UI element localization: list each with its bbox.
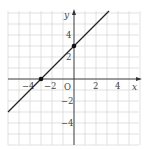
y-tick-label: −4 xyxy=(61,118,74,128)
y-axis-label: y xyxy=(63,10,70,20)
x-axis-label: x xyxy=(132,82,137,92)
coordinate-plane: x y O −4−22442−2−4 xyxy=(0,0,145,149)
y-tick-label: −2 xyxy=(61,96,74,106)
axes: x y O xyxy=(8,9,142,145)
origin-label: O xyxy=(64,82,71,92)
x-tick-label: 4 xyxy=(115,81,120,91)
graph-line xyxy=(8,11,109,112)
x-intercept-point xyxy=(39,77,44,82)
y-intercept-point xyxy=(72,44,77,49)
x-tick-label: −4 xyxy=(22,81,35,91)
y-tick-label: 4 xyxy=(66,30,71,40)
x-tick-label: −2 xyxy=(44,81,57,91)
x-tick-label: 2 xyxy=(93,81,98,91)
y-axis-arrow-icon xyxy=(72,9,76,15)
x-axis-arrow-icon xyxy=(136,77,142,81)
